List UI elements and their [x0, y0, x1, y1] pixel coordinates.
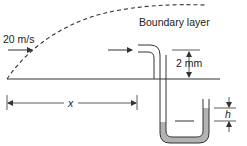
distance-label: x — [67, 97, 74, 109]
pitot-tube-inner — [138, 52, 154, 60]
manometer-head-label: h — [225, 108, 231, 120]
manometer-fluid — [160, 108, 209, 143]
probe-height-label: 2 mm — [176, 57, 203, 69]
boundary-layer-pitot-diagram: 20 m/s Boundary layer 2 mm h x — [0, 0, 247, 146]
velocity-label: 20 m/s — [3, 33, 35, 45]
boundary-layer-label: Boundary layer — [139, 16, 210, 28]
